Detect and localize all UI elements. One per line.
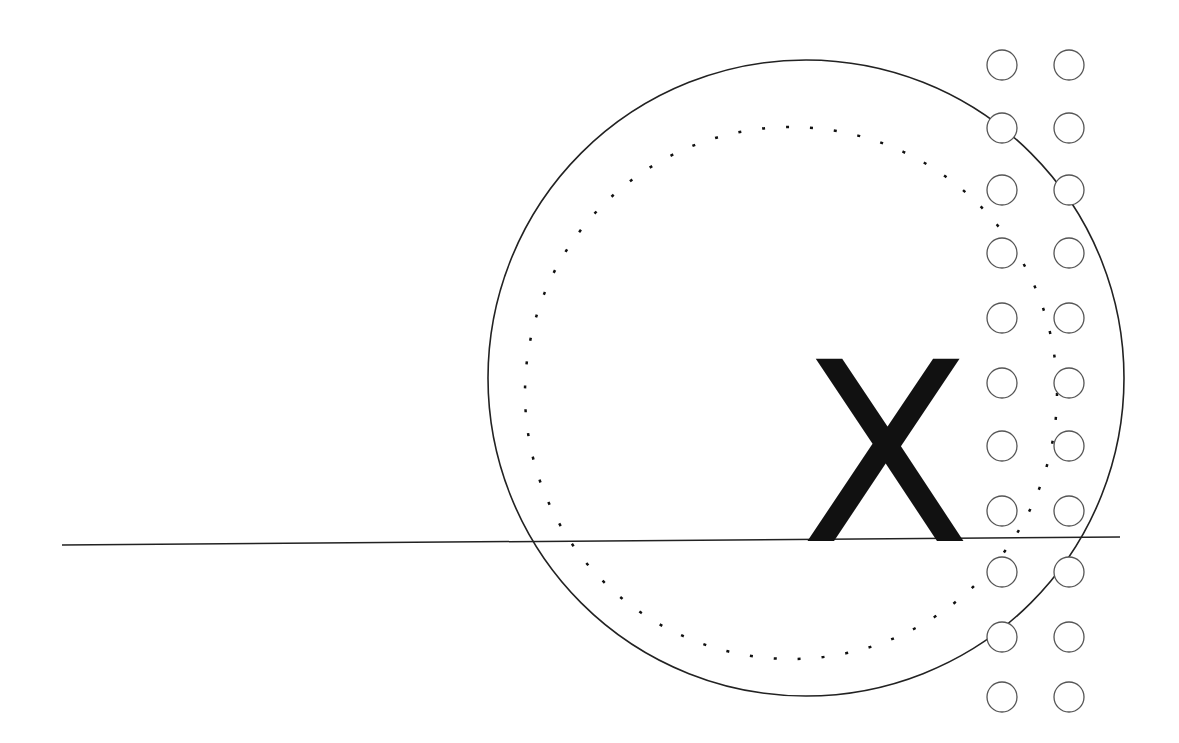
small-circle	[1054, 113, 1084, 143]
small-circle	[1054, 557, 1084, 587]
small-circle	[987, 431, 1017, 461]
small-circle	[1054, 622, 1084, 652]
small-circle	[1054, 50, 1084, 80]
small-circle	[987, 175, 1017, 205]
small-circle	[1054, 303, 1084, 333]
diagram-canvas	[0, 0, 1179, 743]
small-circle-grid	[987, 50, 1084, 712]
small-circle	[987, 50, 1017, 80]
small-circle	[1054, 175, 1084, 205]
x-mark-label: X	[800, 330, 971, 580]
small-circle	[1054, 496, 1084, 526]
small-circle	[987, 496, 1017, 526]
dotted-circle	[525, 127, 1057, 659]
small-circle	[1054, 682, 1084, 712]
small-circle	[987, 113, 1017, 143]
small-circle	[1054, 431, 1084, 461]
small-circle	[987, 368, 1017, 398]
small-circle	[987, 557, 1017, 587]
small-circle	[1054, 238, 1084, 268]
small-circle	[1054, 368, 1084, 398]
small-circle	[987, 682, 1017, 712]
small-circle	[987, 622, 1017, 652]
small-circle	[987, 238, 1017, 268]
small-circle	[987, 303, 1017, 333]
